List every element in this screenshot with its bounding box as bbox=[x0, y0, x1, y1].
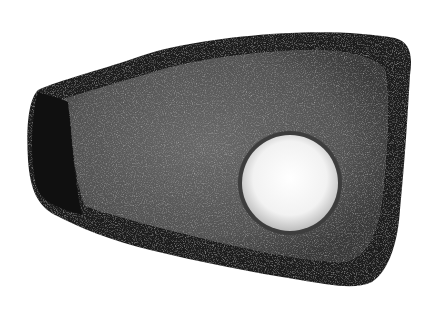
drilled-hole bbox=[242, 135, 338, 231]
stone-tool-photo bbox=[0, 0, 446, 317]
photo-stage bbox=[0, 0, 446, 317]
